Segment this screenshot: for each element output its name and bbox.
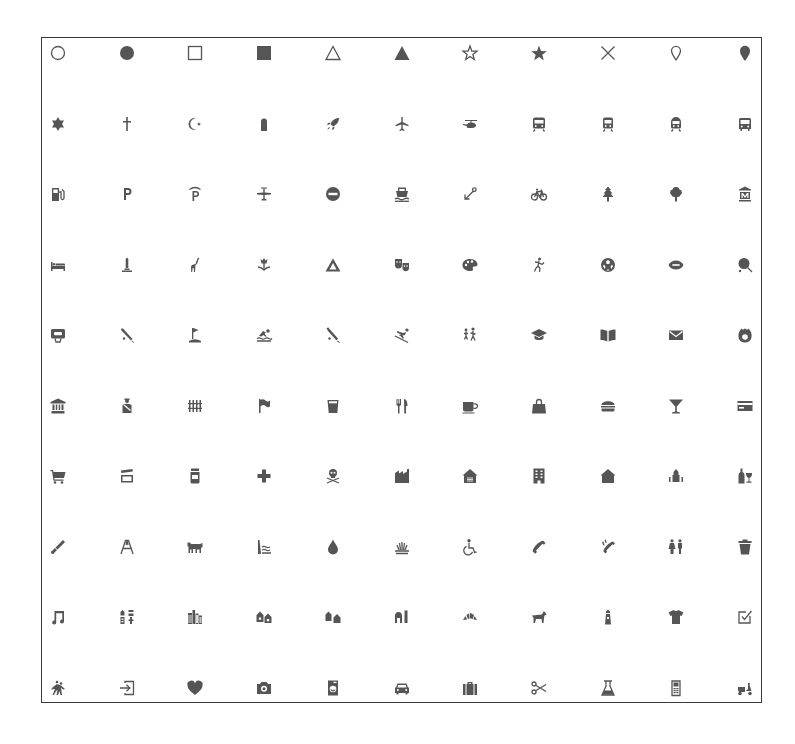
zoo-icon — [184, 254, 206, 276]
wetland-icon — [391, 536, 413, 558]
telephone-icon — [528, 536, 550, 558]
triangle-icon — [391, 42, 413, 64]
water-icon — [322, 536, 344, 558]
circle-icon — [116, 42, 138, 64]
playground-icon — [47, 677, 69, 699]
waste-basket-icon — [734, 536, 756, 558]
circle-stroked-icon — [47, 42, 69, 64]
oil-well-icon — [116, 536, 138, 558]
hospital-icon — [253, 465, 275, 487]
square-icon — [253, 42, 275, 64]
entrance-icon — [116, 677, 138, 699]
dam-icon — [253, 536, 275, 558]
pitch-icon — [528, 254, 550, 276]
restaurant-icon — [391, 395, 413, 417]
rocket-icon — [322, 113, 344, 135]
garden-icon — [253, 254, 275, 276]
hairdresser-icon — [528, 677, 550, 699]
baseball-icon — [116, 324, 138, 346]
soccer-icon — [597, 254, 619, 276]
cross-icon — [597, 42, 619, 64]
beer-icon — [322, 395, 344, 417]
commercial-building-icon — [528, 465, 550, 487]
city-icon — [184, 606, 206, 628]
rail-icon — [528, 113, 550, 135]
rail-light-icon — [665, 113, 687, 135]
ferry-icon — [391, 183, 413, 205]
theatre-icon — [391, 254, 413, 276]
campsite-icon — [322, 254, 344, 276]
cemetery-icon — [253, 113, 275, 135]
triangle-stroked-icon — [322, 42, 344, 64]
america-football-icon — [665, 254, 687, 276]
fuel-icon — [47, 183, 69, 205]
golf-icon — [184, 324, 206, 346]
museum-icon — [734, 183, 756, 205]
cinema-icon — [116, 465, 138, 487]
police-icon — [116, 395, 138, 417]
square-stroked-icon — [184, 42, 206, 64]
religious-jewish-icon — [47, 113, 69, 135]
heliport-icon — [459, 113, 481, 135]
harbor-icon — [459, 183, 481, 205]
school-icon — [459, 324, 481, 346]
rail-metro-icon — [597, 113, 619, 135]
fire-station-icon — [734, 324, 756, 346]
emergency-telephone-icon — [597, 536, 619, 558]
industrial-icon — [391, 465, 413, 487]
disability-icon — [459, 536, 481, 558]
library-icon — [597, 324, 619, 346]
shop-icon — [528, 395, 550, 417]
alcohol-shop-icon — [734, 465, 756, 487]
post-icon — [665, 324, 687, 346]
religious-muslim-icon — [184, 113, 206, 135]
airfield-icon — [253, 183, 275, 205]
bar-icon — [665, 395, 687, 417]
bank-icon — [734, 395, 756, 417]
fast-food-icon — [597, 395, 619, 417]
bicycle-icon — [528, 183, 550, 205]
parking-garage-icon — [184, 183, 206, 205]
bakery-icon — [459, 606, 481, 628]
music-icon — [47, 606, 69, 628]
cricket-icon — [322, 324, 344, 346]
car-icon — [391, 677, 413, 699]
tennis-icon — [734, 254, 756, 276]
lighthouse-icon — [597, 606, 619, 628]
slaughterhouse-icon — [184, 536, 206, 558]
grocery-icon — [47, 465, 69, 487]
skiing-icon — [391, 324, 413, 346]
airport-icon — [391, 113, 413, 135]
farm-icon — [391, 606, 413, 628]
polling-place-icon — [734, 606, 756, 628]
warehouse-icon — [459, 465, 481, 487]
land-use-icon — [116, 606, 138, 628]
scooter-icon — [734, 677, 756, 699]
swimming-icon — [253, 324, 275, 346]
pharmacy-icon — [184, 465, 206, 487]
marker-icon — [734, 42, 756, 64]
embassy-icon — [253, 395, 275, 417]
chemist-icon — [597, 677, 619, 699]
logging-icon — [47, 536, 69, 558]
park2-icon — [665, 183, 687, 205]
village-icon — [322, 606, 344, 628]
place-of-worship-icon — [665, 465, 687, 487]
suitcase-icon — [459, 677, 481, 699]
camera-icon — [253, 677, 275, 699]
basketball-icon — [47, 324, 69, 346]
toilets-icon — [665, 536, 687, 558]
prison-icon — [184, 395, 206, 417]
mobilephone-icon — [665, 677, 687, 699]
laundry-icon — [322, 677, 344, 699]
marker-stroked-icon — [665, 42, 687, 64]
star-icon — [528, 42, 550, 64]
town-hall-icon — [47, 395, 69, 417]
college-icon — [528, 324, 550, 346]
danger-icon — [322, 465, 344, 487]
monument-icon — [116, 254, 138, 276]
star-stroked-icon — [459, 42, 481, 64]
cafe-icon — [459, 395, 481, 417]
park-icon — [597, 183, 619, 205]
icon-grid-frame — [41, 37, 762, 703]
